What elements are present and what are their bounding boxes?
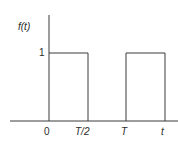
x-tick-period: T <box>121 127 127 137</box>
x-tick-half-period: T/2 <box>75 127 89 137</box>
pulse-1 <box>49 53 88 121</box>
x-axis-label: t <box>161 127 164 137</box>
pulse-2 <box>126 53 165 121</box>
y-tick-1: 1 <box>39 48 45 58</box>
x-tick-0: 0 <box>44 127 50 137</box>
square-wave-diagram: f(t) 1 0 T/2 T t <box>0 0 178 145</box>
y-axis-label: f(t) <box>18 22 30 32</box>
